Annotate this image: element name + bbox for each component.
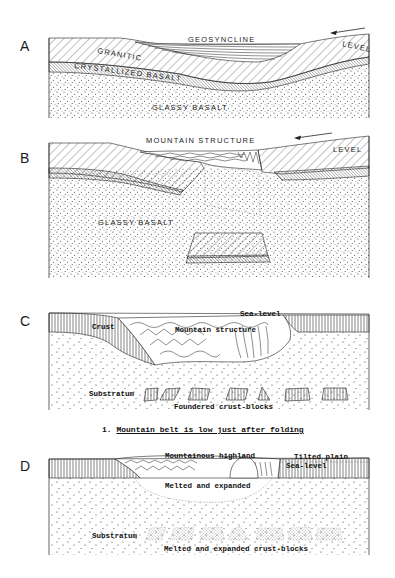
panel-a: GEOSYNCLINE LEVEL GRANITIC CRYSTALLIZED … (49, 28, 372, 118)
label-melted-blocks: Melted and expanded crust-blocks (164, 545, 309, 553)
caption-number: 1. (102, 425, 112, 434)
label-substratum-c: Substratum (89, 390, 135, 398)
label-sea-level-c: Sea-level (240, 310, 281, 318)
label-tilted-plain: Tilted plain (294, 453, 349, 461)
label-geosyncline: GEOSYNCLINE (188, 35, 255, 44)
panel-b: MOUNTAIN STRUCTURE LEVEL GLASSY BASALT (49, 133, 369, 278)
figure-caption: 1. Mountain belt is low just after foldi… (102, 425, 304, 434)
label-glassy-basalt-a: GLASSY BASALT (152, 103, 228, 112)
label-level-b: LEVEL (333, 145, 362, 154)
caption-text: Mountain belt is low just after folding (116, 425, 303, 434)
label-mountain-structure-b: MOUNTAIN STRUCTURE (146, 136, 255, 145)
label-glassy-basalt-b: GLASSY BASALT (98, 218, 174, 227)
label-crust-c: Crust (92, 323, 115, 331)
label-foundered-blocks: Foundered crust-blocks (174, 403, 274, 411)
geology-diagram: GEOSYNCLINE LEVEL GRANITIC CRYSTALLIZED … (0, 0, 395, 578)
label-mountain-structure-c: Mountain structure (175, 326, 257, 334)
panel-d: Mountainous highland Tilted plain Sea-le… (49, 452, 369, 555)
label-melted-expanded: Melted and expanded (165, 482, 251, 490)
label-mountainous-highland: Mountainous highland (165, 452, 255, 460)
label-substratum-d: Substratum (92, 532, 138, 540)
panel-c: Sea-level Crust Mountain structure Subst… (49, 310, 369, 411)
label-sea-level-d: Sea-level (286, 462, 327, 470)
